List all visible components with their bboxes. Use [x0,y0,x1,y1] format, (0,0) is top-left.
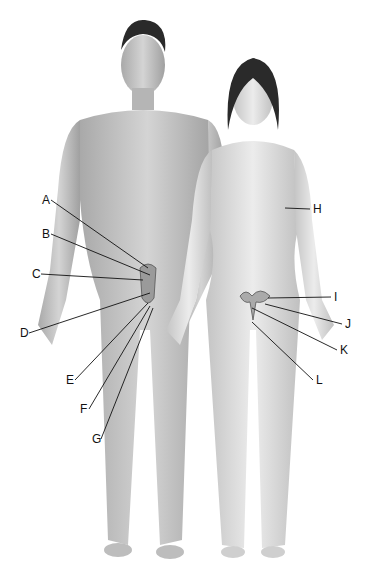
label-l: L [316,374,323,386]
anatomy-figure: ABCDEFGHIJKL [0,0,379,584]
label-g: G [92,433,101,445]
label-d: D [20,327,29,339]
figure-illustration [0,0,379,584]
label-f: F [80,403,87,415]
label-k: K [340,344,348,356]
label-j: J [345,318,351,330]
label-h: H [313,203,322,215]
label-e: E [66,374,74,386]
label-c: C [32,268,41,280]
label-a: A [42,194,50,206]
label-b: B [42,228,50,240]
label-i: I [334,291,337,303]
